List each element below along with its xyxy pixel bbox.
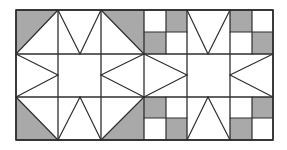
shaded-patch	[166, 118, 187, 140]
shaded-patch	[144, 32, 166, 54]
shaded-patch	[252, 97, 273, 118]
shaded-patch	[230, 118, 252, 140]
shaded-patch	[252, 32, 273, 54]
shaded-patch	[230, 10, 252, 32]
shaded-patch	[166, 10, 187, 32]
quilt-diagram: Quilt block pattern: two star blocks wit…	[0, 0, 287, 150]
shaded-patch	[144, 97, 166, 118]
